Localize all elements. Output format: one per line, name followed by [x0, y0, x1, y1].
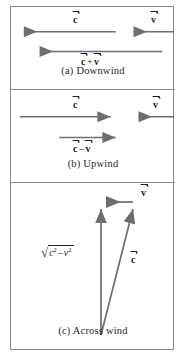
minus-operator: –: [77, 143, 85, 154]
radical-exp-v: 2: [68, 246, 71, 253]
v-vector-label: v: [141, 188, 146, 198]
resultant-vector-label: c–v: [73, 144, 90, 154]
c-vector-label: c: [73, 15, 77, 25]
panel-across-wind-caption: (c) Across wind: [11, 325, 175, 336]
panel-downwind: c v c+v (a) Downwind: [11, 7, 175, 90]
vector-diagram-figure: c v c+v (a) Downwind c: [0, 0, 185, 357]
v-vector-label: v: [151, 15, 156, 25]
radical-sign: √: [41, 245, 48, 260]
c-vector-label: c: [131, 255, 135, 265]
resultant-magnitude-label: √c2–v2: [41, 245, 74, 259]
c-arrow-line: [101, 209, 133, 335]
v-vector-label: v: [153, 100, 158, 110]
figure-frame: c v c+v (a) Downwind c: [10, 6, 174, 350]
panel-upwind-caption: (b) Upwind: [11, 158, 175, 169]
panel-upwind: c v c–v (b) Upwind: [11, 90, 175, 183]
panel-across-wind: v c √c2–v2 (c) Across wind: [11, 183, 175, 349]
radical-minus-operator: –: [57, 247, 64, 258]
panel-downwind-caption: (a) Downwind: [11, 65, 175, 76]
c-vector-label: c: [73, 100, 77, 110]
